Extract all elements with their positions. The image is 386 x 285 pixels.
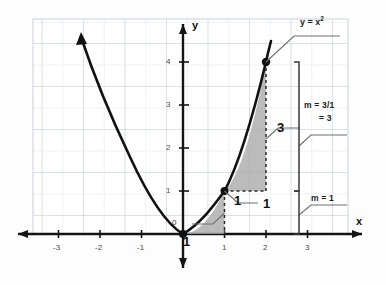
- slope-upper-line2: = 3: [319, 113, 332, 123]
- xtick-label--1: -1: [137, 243, 144, 252]
- xtick-label-1: 1: [222, 243, 226, 252]
- run-label-upper: 1: [263, 196, 270, 211]
- function-label-text: y = x: [300, 17, 320, 27]
- ytick-label-3: 3: [166, 100, 170, 109]
- y-axis-label: y: [192, 19, 198, 31]
- x-axis-label: x: [356, 215, 362, 227]
- slope-upper-line1: m = 3/1: [304, 100, 334, 110]
- grid-background: [33, 19, 348, 234]
- run-label-lower: 1: [183, 234, 190, 249]
- xtick-label--2: -2: [95, 243, 102, 252]
- origin-label: 0: [172, 218, 176, 227]
- function-label: y = x2: [300, 15, 324, 27]
- figure-canvas: -3 -2 -1 1 2 3 1 2 3 4 y x 0 y = x2 1 1 …: [0, 0, 386, 285]
- xtick-label-2: 2: [263, 243, 267, 252]
- slope-lower-line1: m = 1: [311, 193, 334, 203]
- rise-label-upper: 3: [277, 120, 284, 135]
- xtick-label-3: 3: [305, 243, 309, 252]
- function-label-exponent: 2: [320, 15, 324, 22]
- ytick-label-4: 4: [166, 57, 170, 66]
- ytick-label-2: 2: [166, 143, 170, 152]
- ytick-label-1: 1: [166, 186, 170, 195]
- xtick-label--3: -3: [53, 243, 60, 252]
- rise-label-lower: 1: [234, 193, 241, 208]
